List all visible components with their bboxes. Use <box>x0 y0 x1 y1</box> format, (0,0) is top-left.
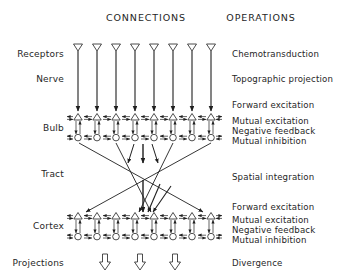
operation-label-forward-excitation-2: Forward excitation <box>232 202 314 212</box>
cortex-mutual-excitation-row <box>67 216 222 219</box>
cortex-layer <box>67 213 222 240</box>
header-connections: CONNECTIONS <box>106 12 186 23</box>
cortex-mutual-inhibition-row <box>67 235 222 238</box>
stage-label-nerve: Nerve <box>36 74 64 84</box>
tract-crossing-fiber <box>86 143 211 212</box>
tract-crossing-fiber <box>139 143 173 212</box>
operation-label-spatial-integration: Spatial integration <box>232 172 314 182</box>
stage-label-projections: Projections <box>13 258 65 268</box>
tract-convergence-upper <box>128 144 158 163</box>
receptor-unit <box>131 44 140 111</box>
cortex-negative-feedback-links <box>76 220 213 233</box>
tract-crossing-fiber <box>79 143 203 212</box>
receptor-unit <box>188 44 197 111</box>
stage-label-cortex: Cortex <box>33 221 64 231</box>
bulb-mutual-inhibition-row <box>67 136 222 139</box>
bulb-inhibitory-cells <box>75 134 215 141</box>
operation-label-forward-excitation-1: Forward excitation <box>232 100 314 110</box>
receptor-group <box>74 44 216 111</box>
tract-layer <box>79 143 211 212</box>
receptor-unit <box>74 44 83 111</box>
stage-label-bulb: Bulb <box>43 123 64 133</box>
bulb-negative-feedback-links <box>76 121 213 134</box>
receptor-unit <box>112 44 121 111</box>
projection-arrow <box>135 254 146 270</box>
operation-label-negative-feedback-2: Negative feedback <box>232 225 315 235</box>
receptor-unit <box>93 44 102 111</box>
receptor-unit <box>207 44 216 111</box>
receptor-unit <box>169 44 178 111</box>
projection-arrow <box>100 254 111 270</box>
operation-label-mutual-inhibition-1: Mutual inhibition <box>232 136 307 146</box>
receptor-unit <box>150 44 159 111</box>
operation-label-chemotransduction: Chemotransduction <box>232 49 319 59</box>
cortex-inhibitory-cells <box>75 233 215 240</box>
operation-label-mutual-excitation-2: Mutual excitation <box>232 215 309 225</box>
bulb-mutual-excitation-row <box>67 117 222 120</box>
projection-arrow-group <box>100 254 181 270</box>
operation-label-mutual-inhibition-2: Mutual inhibition <box>232 235 307 245</box>
operation-label-divergence: Divergence <box>232 258 282 268</box>
operation-label-topographic-projection: Topographic projection <box>231 74 333 84</box>
bulb-layer <box>67 114 222 141</box>
tract-crossing-fiber <box>116 143 151 212</box>
operation-label-negative-feedback-1: Negative feedback <box>232 126 315 136</box>
operation-label-mutual-excitation-1: Mutual excitation <box>232 116 309 126</box>
projection-arrow <box>170 254 181 270</box>
diagram-canvas: CONNECTIONS OPERATIONS Receptors Nerve B… <box>0 0 339 280</box>
olfactory-pathway-figure: CONNECTIONS OPERATIONS Receptors Nerve B… <box>0 0 339 280</box>
stage-label-tract: Tract <box>40 169 64 179</box>
header-operations: OPERATIONS <box>226 12 295 23</box>
stage-label-receptors: Receptors <box>17 49 64 59</box>
